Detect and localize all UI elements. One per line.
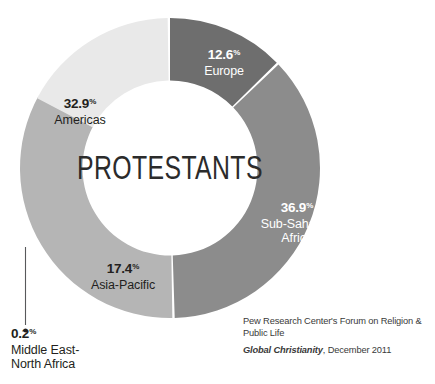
source-credit: Pew Research Center's Forum on Religion …	[243, 315, 435, 356]
slice-label-middle-east-north-africa: 0.2% Middle East- North Africa	[11, 326, 131, 372]
slice-value-asia-pacific-number: 17.4	[107, 261, 132, 276]
percent-sign-icon: %	[132, 262, 139, 271]
source-date: , December 2011	[323, 345, 391, 355]
slice-value-mena: 0.2%	[11, 326, 131, 342]
percent-sign-icon: %	[306, 201, 313, 210]
slice-label-asia-pacific: 17.4% Asia-Pacific	[62, 261, 184, 292]
slice-value-asia-pacific: 17.4%	[62, 261, 184, 277]
slice-label-americas: 32.9% Americas	[28, 96, 132, 127]
slice-label-sub-saharan-africa: 36.9% Sub-Saharan Africa	[243, 200, 351, 246]
percent-sign-icon: %	[29, 327, 36, 336]
slice-value-mena-number: 0.2	[11, 326, 29, 341]
source-organization: Pew Research Center's Forum on Religion …	[243, 315, 435, 339]
slice-name-ssa-line2: Africa	[243, 231, 351, 246]
slice-value-americas: 32.9%	[28, 96, 132, 112]
percent-sign-icon: %	[89, 97, 96, 106]
source-publication-title: Global Christianity	[243, 345, 323, 355]
percent-sign-icon: %	[233, 48, 240, 57]
slice-name-europe: Europe	[178, 64, 270, 79]
slice-name-americas: Americas	[28, 113, 132, 128]
slice-name-mena-line1: Middle East-	[11, 343, 131, 358]
slice-name-ssa-line1: Sub-Saharan	[243, 217, 351, 232]
slice-sub-saharan-africa[interactable]	[173, 64, 320, 318]
slice-value-europe: 12.6%	[178, 47, 270, 63]
slice-value-ssa-number: 36.9	[281, 200, 306, 215]
slice-label-europe: 12.6% Europe	[178, 47, 270, 78]
slice-value-europe-number: 12.6	[208, 47, 233, 62]
source-publication-line: Global Christianity, December 2011	[243, 344, 435, 356]
slice-value-sub-saharan-africa: 36.9%	[243, 200, 351, 216]
slice-name-asia-pacific: Asia-Pacific	[62, 278, 184, 293]
slice-name-mena-line2: North Africa	[11, 357, 131, 372]
protestants-donut-chart: PROTESTANTS 12.6% Europe 36.9% Sub-Sahar…	[0, 0, 435, 384]
slice-value-americas-number: 32.9	[64, 96, 89, 111]
